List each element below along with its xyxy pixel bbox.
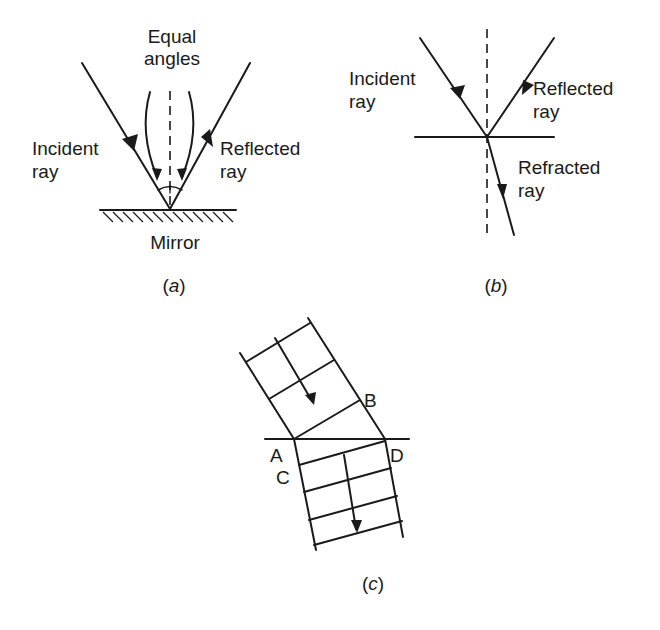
caption-b: (b) [484,275,507,296]
incident-arrow-icon [122,134,138,151]
point-a-label: A [270,445,283,466]
caption-c: (c) [362,573,384,594]
incident-ray-line [82,63,170,209]
mirror-hatching [103,212,233,222]
figure-a-reflection: Equal angles [32,26,300,296]
equal-angles-label-line1: Equal [148,26,197,47]
optics-figure: Equal angles [0,0,660,630]
reflected-ray-label-line2: ray [220,161,247,182]
incident-ray-label-line2: ray [32,161,59,182]
equal-angles-label-line2: angles [144,48,200,69]
incident-beam-right-edge [308,318,385,439]
equal-angle-arrow-left-icon [152,168,162,181]
refracted-direction-arrow-icon [351,520,362,533]
refracted-direction-line [344,455,356,529]
mirror-label: Mirror [150,232,200,253]
refracted-arrow-icon [497,184,507,199]
reflected-ray-label-line1: Reflected [220,138,300,159]
caption-a: (a) [162,275,185,296]
refracted-ray-label-line1: Refracted [518,157,600,178]
equal-angle-curve-left [146,92,157,177]
reflected-ray-label-line2: ray [533,101,560,122]
reflected-arrow-icon [201,129,213,147]
refracted-wavefront-cd [299,441,385,465]
incident-wavefront-2 [269,360,334,399]
incident-beam-left-edge [240,353,294,439]
refracted-beam-left-edge [294,439,316,550]
figure-c-wavefronts: A B C D (c) [240,318,409,594]
reflected-ray-label-line1: Reflected [533,78,613,99]
incident-ray-label-line1: Incident [32,138,99,159]
incident-wavefront-ab [294,400,360,439]
incident-ray-label-line2: ray [349,91,376,112]
incident-ray-label-line1: Incident [349,68,416,89]
equal-angle-curve-right [182,92,193,177]
incident-direction-arrow-icon [305,392,316,405]
figure-b-refraction: Incident ray Reflected ray Refracted ray… [349,29,613,296]
point-c-label: C [276,467,290,488]
point-b-label: B [364,390,377,411]
refracted-ray-label-line2: ray [518,180,545,201]
point-d-label: D [390,445,404,466]
